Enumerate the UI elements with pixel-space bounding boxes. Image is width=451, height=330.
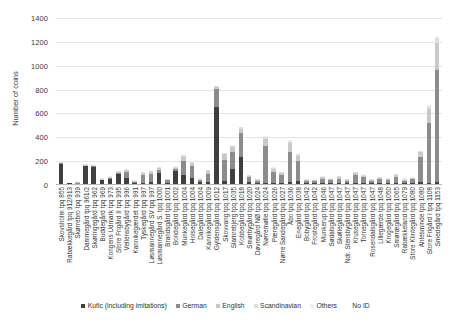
legend-label: English — [222, 303, 244, 310]
bar-column[interactable] — [122, 18, 130, 184]
x-axis-tick-label: Skovsholm tpq 855 — [58, 187, 65, 241]
legend-item[interactable]: German — [176, 303, 207, 310]
bar-stack — [116, 171, 121, 184]
x-axis-tick-label: Krusegård tpq 1047 — [352, 187, 359, 243]
x-axis-tick-label: Kannikegærdet tpq 991 — [131, 187, 138, 254]
bar-column[interactable] — [196, 18, 204, 184]
x-axis-label-cell: Nørremølle tpq 1024 — [261, 187, 269, 297]
y-axis-tick-label: 800 — [35, 85, 48, 94]
legend-item[interactable]: Kufic (including imitations) — [81, 303, 166, 310]
bar-column[interactable] — [114, 18, 122, 184]
x-axis-tick-label: Ndr. Stensbygård tpq 1047 — [344, 187, 351, 263]
bar-stack — [279, 172, 284, 184]
x-axis-label-cell: Ahlesminde tpq 1080 — [417, 187, 425, 297]
x-axis-tick-label: Tyskegård tpq 997 — [139, 187, 146, 240]
x-axis-label-cell: Dammegård tpq 961/2 — [82, 187, 90, 297]
bar-stack — [149, 170, 154, 184]
x-axis-tick-label: Store Klintegård tpq 1080 — [409, 187, 416, 260]
bar-column[interactable] — [335, 18, 343, 184]
bar-column[interactable] — [400, 18, 408, 184]
x-axis-tick-label: Enegård tpq 1038 — [295, 187, 302, 238]
bar-segment — [149, 174, 154, 181]
bar-column[interactable] — [90, 18, 98, 184]
x-axis-tick-label: Kongens Udmark tpq 973 — [107, 187, 114, 260]
bar-column[interactable] — [147, 18, 155, 184]
bar-column[interactable] — [408, 18, 416, 184]
y-axis-tick-label: 400 — [35, 133, 48, 142]
x-axis-tick-label: Brandsgård tpq 1001 — [164, 187, 171, 247]
legend-item[interactable]: Scandinavian — [254, 303, 301, 310]
legend-item[interactable]: No ID — [346, 303, 370, 310]
bar-column[interactable] — [106, 18, 114, 184]
bar-column[interactable] — [65, 18, 73, 184]
x-axis-label-cell: Skovsholm tpq 855 — [57, 187, 65, 297]
bar-segment — [230, 152, 235, 169]
bar-column[interactable] — [180, 18, 188, 184]
bar-segment — [427, 123, 432, 183]
x-axis-tick-label: Smørægård tpq 1065 — [393, 187, 400, 248]
bar-column[interactable] — [310, 18, 318, 184]
bar-column[interactable] — [351, 18, 359, 184]
bar-column[interactable] — [245, 18, 253, 184]
bar-column[interactable] — [417, 18, 425, 184]
bar-column[interactable] — [425, 18, 433, 184]
x-axis-tick-label: Lillegærde tpq 1048 — [376, 187, 383, 244]
x-axis-tick-label: Dalegård tpq 1004 — [197, 187, 204, 240]
bar-column[interactable] — [73, 18, 81, 184]
bar-column[interactable] — [278, 18, 286, 184]
bar-column[interactable] — [237, 18, 245, 184]
bar-column[interactable] — [155, 18, 163, 184]
x-axis-tick-label: Slamrebjerg tpq 1035 — [229, 187, 236, 248]
x-axis-tick-label: Løsmannegård SV tpq 997 — [147, 187, 154, 263]
x-axis-tick-label: Kannikegård tpq 1009 — [205, 187, 212, 250]
bar-column[interactable] — [359, 18, 367, 184]
bar-column[interactable] — [294, 18, 302, 184]
bar-column[interactable] — [376, 18, 384, 184]
x-axis-label-cell: Frostegård tpq 1042 — [310, 187, 318, 297]
x-axis-tick-label: Gyldensgård tpq 1012 — [213, 187, 220, 250]
bar-stack — [337, 176, 342, 184]
bar-column[interactable] — [319, 18, 327, 184]
bar-column[interactable] — [261, 18, 269, 184]
bar-column[interactable] — [57, 18, 65, 184]
bar-column[interactable] — [384, 18, 392, 184]
legend-item[interactable]: English — [216, 303, 245, 310]
bar-column[interactable] — [368, 18, 376, 184]
bar-column[interactable] — [82, 18, 90, 184]
bar-column[interactable] — [269, 18, 277, 184]
x-axis-label-cell: Rabækkeland tpq 1079 — [400, 187, 408, 297]
legend-swatch-icon — [254, 304, 258, 308]
bar-column[interactable] — [433, 18, 441, 184]
legend-label: No ID — [352, 303, 369, 310]
bar-series-container — [56, 18, 442, 184]
bar-column[interactable] — [212, 18, 220, 184]
bar-column[interactable] — [286, 18, 294, 184]
bar-stack — [173, 166, 178, 184]
bar-column[interactable] — [98, 18, 106, 184]
bar-column[interactable] — [139, 18, 147, 184]
bar-column[interactable] — [188, 18, 196, 184]
legend-label: German — [182, 303, 207, 310]
bar-column[interactable] — [131, 18, 139, 184]
bar-column[interactable] — [343, 18, 351, 184]
bar-column[interactable] — [220, 18, 228, 184]
x-axis-label-cell: Store Klintegård tpq 1080 — [408, 187, 416, 297]
bar-column[interactable] — [253, 18, 261, 184]
bar-segment — [222, 160, 227, 181]
bar-column[interactable] — [229, 18, 237, 184]
bar-column[interactable] — [327, 18, 335, 184]
x-axis-tick-label: Åbo tpq 1036 — [286, 187, 293, 225]
legend-item[interactable]: Others — [310, 303, 337, 310]
x-axis-tick-label: Rabækkeland tpq 1079 — [401, 187, 408, 253]
bar-column[interactable] — [204, 18, 212, 184]
bar-segment — [91, 167, 96, 184]
x-axis-label-cell: Skørrebro tpq 939 — [73, 187, 81, 297]
bar-segment — [116, 174, 121, 184]
bar-column[interactable] — [302, 18, 310, 184]
bar-column[interactable] — [163, 18, 171, 184]
bar-segment — [279, 175, 284, 183]
x-axis-tick-label: Rabækkegård tpq 912/913 — [66, 187, 73, 263]
bar-column[interactable] — [392, 18, 400, 184]
bar-column[interactable] — [171, 18, 179, 184]
bar-stack — [410, 177, 415, 184]
